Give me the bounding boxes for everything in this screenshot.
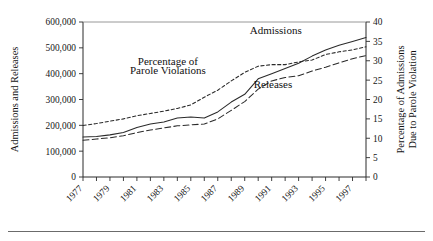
series-path-admissions — [83, 38, 366, 137]
right-tick-label: 5 — [373, 153, 378, 163]
x-tick-label: 1985 — [172, 183, 193, 204]
right-axis-ticks: 0510152025303540 — [366, 17, 383, 182]
x-tick-label: 1981 — [118, 183, 139, 204]
left-tick-label: 400,000 — [46, 69, 77, 79]
right-tick-label: 30 — [373, 56, 383, 66]
right-tick-label: 10 — [373, 134, 383, 144]
chart-axes — [83, 22, 366, 177]
left-tick-label: 0 — [71, 172, 76, 182]
right-tick-label: 15 — [373, 114, 383, 124]
annotation-admissions: Admissions — [250, 24, 302, 36]
left-tick-label: 100,000 — [46, 147, 77, 157]
line-chart: 0100,000200,000300,000400,000500,000600,… — [0, 0, 433, 241]
series-annotations: AdmissionsReleasesPercentage ofParole Vi… — [130, 24, 302, 90]
right-tick-label: 25 — [373, 76, 383, 86]
x-tick-label: 1977 — [64, 183, 85, 204]
x-tick-label: 1993 — [280, 183, 301, 204]
left-tick-label: 300,000 — [46, 95, 77, 105]
left-tick-label: 600,000 — [46, 17, 77, 27]
y-axis-right-title-line1: Percentage of Admissions — [395, 46, 406, 154]
series-path-percentage-of-parole-violations — [83, 47, 366, 126]
right-tick-label: 35 — [373, 37, 383, 47]
x-tick-label: 1989 — [226, 183, 247, 204]
y-axis-right-title-line2: Due to Parole Violation — [407, 50, 418, 149]
data-series-group — [83, 38, 366, 141]
x-tick-label: 1983 — [145, 183, 166, 204]
x-tick-label: 1979 — [91, 183, 112, 204]
figure-container: 0100,000200,000300,000400,000500,000600,… — [0, 0, 433, 241]
right-tick-label: 0 — [373, 172, 378, 182]
left-axis-ticks: 0100,000200,000300,000400,000500,000600,… — [46, 17, 83, 182]
annotation-releases: Releases — [254, 78, 292, 90]
left-tick-label: 200,000 — [46, 121, 77, 131]
x-tick-label: 1987 — [199, 183, 220, 204]
series-path-releases — [83, 56, 366, 141]
annotation-parole-violations: Parole Violations — [130, 64, 206, 76]
right-tick-label: 20 — [373, 95, 383, 105]
x-tick-label: 1991 — [253, 183, 274, 204]
x-tick-label: 1995 — [307, 183, 328, 204]
footer-divider — [8, 231, 425, 232]
y-axis-left-title: Admissions and Releases — [9, 47, 20, 153]
right-tick-label: 40 — [373, 17, 383, 27]
x-tick-label: 1997 — [334, 183, 355, 204]
x-axis-ticks: 1977197919811983198519871989199119931995… — [64, 177, 366, 204]
left-tick-label: 500,000 — [46, 43, 77, 53]
